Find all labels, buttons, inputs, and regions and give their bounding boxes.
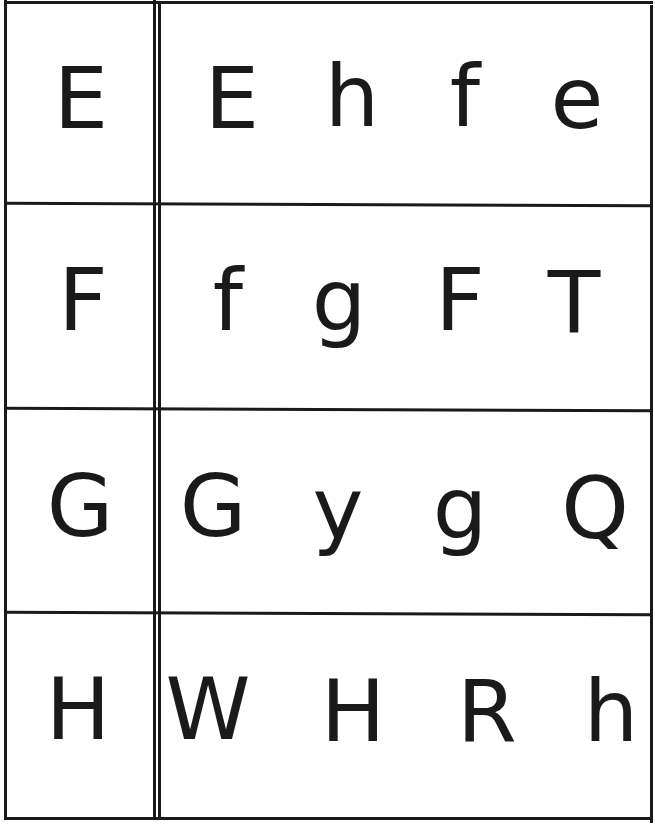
choice-letter[interactable]: e <box>551 55 604 141</box>
grid-line-row-1 <box>4 202 653 207</box>
grid-line-left <box>4 0 7 820</box>
target-letter: G <box>47 463 114 549</box>
grid-line-right <box>650 5 653 823</box>
choice-letter[interactable]: T <box>548 259 601 345</box>
grid-line-row-3 <box>4 611 653 616</box>
choice-letter[interactable]: W <box>165 666 250 752</box>
choice-letter[interactable]: H <box>321 668 386 754</box>
grid-line-row-2 <box>4 407 653 412</box>
choice-letter[interactable]: G <box>180 463 247 549</box>
choice-letter[interactable]: f <box>450 53 480 139</box>
target-letter: E <box>54 55 108 141</box>
target-letter: H <box>46 666 111 752</box>
choice-letter[interactable]: R <box>457 668 517 754</box>
choice-letter[interactable]: y <box>313 465 364 551</box>
choice-letter[interactable]: h <box>584 668 639 754</box>
choice-letter[interactable]: Q <box>561 465 629 551</box>
grid-line-top <box>4 1 653 4</box>
grid-line-separator-2 <box>158 2 161 820</box>
choice-letter[interactable]: E <box>205 55 259 141</box>
grid-line-bottom <box>4 817 653 820</box>
choice-letter[interactable]: h <box>325 53 380 139</box>
target-letter: F <box>58 257 107 343</box>
choice-letter[interactable]: g <box>312 257 367 343</box>
choice-letter[interactable]: g <box>433 465 488 551</box>
choice-letter[interactable]: F <box>435 257 484 343</box>
choice-letter[interactable]: f <box>213 257 243 343</box>
